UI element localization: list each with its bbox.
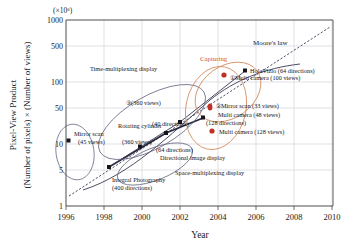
y-axis-title-line1: Pixel-View Product — [8, 79, 18, 150]
x-tick-label: 2008 — [286, 212, 303, 222]
y-tick-label: 1 — [59, 202, 63, 211]
annotation-capturing: Capturing — [200, 55, 228, 62]
x-tick-marks — [66, 206, 332, 210]
data-point-mirror-scan-33[interactable] — [208, 103, 213, 110]
y-axis-multiplier: (×10⁶) — [53, 6, 73, 15]
data-point-integral-photography-400[interactable] — [107, 165, 111, 169]
annotation-integral-photography: Integral Photography — [112, 176, 166, 183]
data-point-64-directions[interactable] — [164, 131, 168, 135]
annotation-space-multiplexing-display: Space-multiplexing display — [175, 169, 245, 176]
annotation-mirror-scan-33: ②Mirror scan (33 views) — [216, 102, 279, 110]
x-tick-label: 2006 — [248, 212, 265, 222]
x-axis-title: Year — [191, 230, 209, 240]
annotation-mirror-scan-45: Mirror scan — [74, 130, 104, 137]
y-tick-label: 500 — [51, 42, 63, 51]
annotation-integral-400-directions: (400 directions) — [112, 184, 152, 192]
annotation-multi-camera-48: Multi camera (48 views) — [218, 111, 280, 119]
annotation-360-views: ③(360 views) — [126, 99, 161, 107]
chart-container: 1996 1998 2000 2002 2004 2006 2008 2010 … — [0, 0, 350, 250]
annotation-mirror-scan-45-views: (45 views) — [78, 138, 105, 146]
y-tick-label: 50 — [55, 104, 63, 113]
plot-area — [66, 20, 333, 206]
x-tick-label: 2010 — [324, 212, 341, 222]
data-point-multi-camera-128[interactable] — [209, 128, 214, 133]
data-point-rotating-cylinder-360[interactable] — [138, 145, 142, 149]
annotation-multi-camera-100: ①Multi camera (100 views) — [230, 74, 300, 82]
annotation-128-directions: (128 directions) — [206, 119, 246, 127]
data-point-holovizio-64[interactable] — [243, 69, 247, 73]
x-tick-label: 1998 — [96, 212, 113, 222]
y-tick-label: 1000 — [47, 16, 63, 25]
annotation-64-directions: (64 directions) — [156, 146, 193, 154]
x-tick-label: 1996 — [58, 212, 75, 222]
y-axis-title-line2: (Number of pixels) × (Number of views) — [22, 41, 32, 188]
annotation-time-multiplexing-display: Time-multiplexing display — [90, 65, 158, 72]
y-tick-label: 100 — [51, 78, 63, 87]
data-point-128-directions[interactable] — [201, 116, 205, 120]
annotation-40-directions: (40 directions) — [152, 120, 189, 128]
data-point-multi-camera-100[interactable] — [221, 72, 226, 77]
data-point-mirror-scan-45[interactable] — [67, 139, 71, 143]
annotation-rotating-cylinder-360: (360 views) — [122, 138, 152, 146]
annotation-multi-camera-128: Multi camera (128 views) — [219, 128, 284, 136]
x-tick-label: 2002 — [172, 212, 189, 222]
x-tick-label: 2004 — [210, 212, 228, 222]
annotation-moore-law: Moore's law — [253, 39, 288, 47]
x-tick-label: 2000 — [134, 212, 151, 222]
annotation-directional-image-display: Directional image display — [160, 154, 226, 161]
